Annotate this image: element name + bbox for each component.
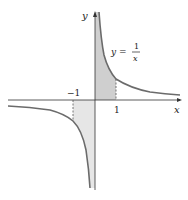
x-axis-arrow-icon: [177, 98, 182, 102]
equation-denominator: x: [133, 54, 138, 63]
x-axis-label: x: [174, 104, 180, 115]
equation-lhs: y =: [110, 47, 127, 57]
equation-numerator: 1: [134, 42, 139, 51]
tick-label-neg-one: −1: [67, 88, 80, 98]
y-axis-label: y: [81, 10, 88, 21]
tick-label-one: 1: [114, 105, 120, 115]
graph-figure: y x −1 1 y = 1 x: [0, 0, 188, 200]
